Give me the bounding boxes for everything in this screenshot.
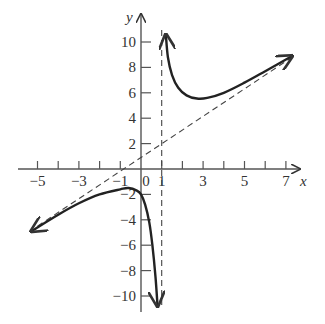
y-tick-label: −10 [113, 288, 136, 304]
x-tick-label: −5 [30, 173, 46, 189]
y-tick-label: −6 [120, 237, 136, 253]
x-tick-label: −3 [71, 173, 87, 189]
right-branch-curve [166, 34, 292, 98]
x-tick-label: 5 [241, 173, 249, 189]
rational-function-graph: xy −5−3−101357108642−2−4−6−8−10 [0, 0, 325, 324]
y-tick-label: 6 [129, 85, 137, 101]
x-tick-label: 7 [282, 173, 290, 189]
x-tick-label: 0 [142, 173, 150, 189]
oblique-asymptote [38, 57, 293, 226]
y-tick-label: −8 [120, 263, 136, 279]
y-axis-label: y [124, 9, 133, 25]
axes: xy [18, 9, 307, 312]
left-branch-curve [31, 188, 157, 306]
y-tick-label: −4 [120, 212, 136, 228]
x-tick-label: 3 [199, 173, 207, 189]
asymptotes [38, 30, 293, 305]
y-tick-label: 8 [129, 59, 137, 75]
y-tick-label: 10 [121, 34, 136, 50]
y-tick-label: 4 [129, 110, 137, 126]
y-tick-label: 2 [129, 136, 137, 152]
x-axis-label: x [299, 173, 307, 189]
